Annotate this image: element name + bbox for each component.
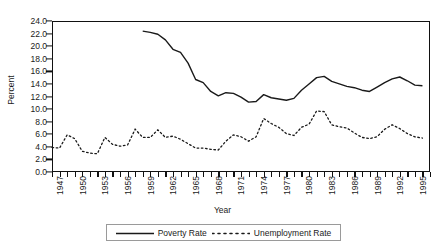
x-tick-label: 1974	[260, 176, 269, 195]
legend-swatch-solid	[116, 229, 154, 236]
x-tick-label: 1947	[56, 176, 65, 195]
x-axis-title: Year	[0, 205, 445, 215]
x-tick-label: 1950	[79, 176, 88, 195]
x-tick-label: 1980	[305, 176, 314, 195]
legend-item-unemployment-rate: Unemployment Rate	[212, 228, 331, 238]
legend-label-poverty-rate: Poverty Rate	[158, 228, 207, 238]
x-tick-label: 1968	[215, 176, 224, 195]
x-tick-label: 1959	[147, 176, 156, 195]
x-tick-label: 1983	[328, 176, 337, 195]
legend-label-unemployment-rate: Unemployment Rate	[254, 228, 331, 238]
x-tick-label: 1986	[351, 176, 360, 195]
x-tick-label: 1992	[396, 176, 405, 195]
x-tick-label: 1956	[124, 176, 133, 195]
x-tick-label: 1977	[283, 176, 292, 195]
x-tick-label: 1953	[101, 176, 110, 195]
x-tick-label: 1962	[169, 176, 178, 195]
x-tick-label: 1995	[419, 176, 428, 195]
x-tick-label: 1989	[374, 176, 383, 195]
y-tick-label: 18.0	[30, 55, 47, 64]
line-poverty-rate	[143, 31, 423, 102]
x-tick-label: 1965	[192, 176, 201, 195]
y-tick-label: 10.0	[30, 105, 47, 114]
chart-legend: Poverty Rate Unemployment Rate	[106, 224, 341, 241]
x-tick-label: 1971	[237, 176, 246, 195]
legend-item-poverty-rate: Poverty Rate	[116, 228, 207, 238]
legend-swatch-dotted	[212, 229, 250, 236]
y-tick-label: 12.0	[30, 92, 47, 101]
line-unemployment-rate	[52, 111, 422, 154]
series-layer	[52, 21, 430, 172]
y-tick-label: 24.0	[30, 17, 47, 26]
y-tick-label: 20.0	[30, 42, 47, 51]
y-tick-label: 16.0	[30, 67, 47, 76]
y-tick-label: 22.0	[30, 29, 47, 38]
y-axis-ticks: 0.02.04.06.08.010.012.014.016.018.020.02…	[0, 14, 50, 180]
chart-container: Percent 0.02.04.06.08.010.012.014.016.01…	[0, 0, 445, 250]
y-tick-label: 14.0	[30, 80, 47, 89]
